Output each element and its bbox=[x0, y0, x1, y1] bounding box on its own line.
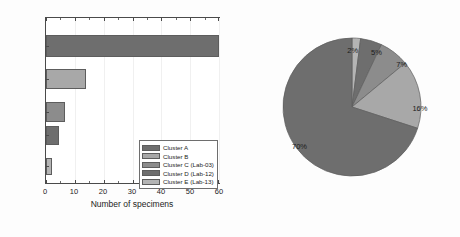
y-axis-tick bbox=[46, 135, 49, 136]
x-axis-title: Number of specimens bbox=[91, 199, 174, 209]
pie-plot-area bbox=[282, 37, 422, 177]
legend-swatch-cluster-b bbox=[142, 153, 160, 159]
bar-cluster-b bbox=[46, 69, 86, 89]
axis-minor-tick bbox=[89, 18, 90, 20]
axis-tick bbox=[75, 18, 76, 21]
legend-item: Cluster D (Lab-12) bbox=[142, 169, 214, 177]
legend-label: Cluster C (Lab-03) bbox=[163, 161, 214, 168]
legend-swatch-cluster-d bbox=[142, 170, 160, 176]
axis-minor-tick bbox=[118, 18, 119, 20]
axis-minor-tick bbox=[147, 18, 148, 20]
axis-tick bbox=[75, 180, 76, 183]
axis-minor-tick bbox=[60, 181, 61, 183]
axis-minor-tick bbox=[60, 18, 61, 20]
bar-cluster-a bbox=[46, 35, 219, 57]
bar-chart-legend: Cluster A Cluster B Cluster C (Lab-03) C… bbox=[139, 140, 218, 189]
axis-tick bbox=[133, 180, 134, 183]
axis-tick bbox=[161, 18, 162, 21]
axis-minor-tick bbox=[118, 181, 119, 183]
legend-swatch-cluster-e bbox=[142, 179, 160, 185]
axis-tick bbox=[46, 18, 47, 21]
legend-label: Cluster E (Lab-13) bbox=[163, 178, 214, 185]
axis-minor-tick bbox=[176, 18, 177, 20]
pie-label-70pct: 70% bbox=[292, 141, 307, 150]
axis-tick bbox=[133, 18, 134, 21]
axis-tick bbox=[46, 180, 47, 183]
legend-item: Cluster E (Lab-13) bbox=[142, 178, 214, 186]
pie-label-7pct: 7% bbox=[396, 60, 407, 69]
legend-label: Cluster D (Lab-12) bbox=[163, 170, 214, 177]
x-tick-label: 10 bbox=[70, 187, 78, 196]
legend-swatch-cluster-c bbox=[142, 162, 160, 168]
pie-label-2pct: 2% bbox=[347, 46, 358, 55]
axis-tick bbox=[218, 18, 219, 21]
legend-label: Cluster B bbox=[163, 153, 188, 160]
bar-chart-panel: 0 10 20 30 40 50 60 Cluster A Cluster B … bbox=[0, 0, 240, 237]
pie-label-16pct: 16% bbox=[412, 103, 427, 112]
axis-tick bbox=[104, 18, 105, 21]
y-axis-tick bbox=[46, 166, 49, 167]
axis-tick bbox=[190, 18, 191, 21]
x-tick-label: 0 bbox=[43, 187, 47, 196]
axis-tick bbox=[218, 180, 219, 183]
legend-label: Cluster A bbox=[163, 144, 188, 151]
x-tick-label: 30 bbox=[128, 187, 136, 196]
legend-item: Cluster B bbox=[142, 152, 214, 160]
y-axis-tick bbox=[46, 112, 49, 113]
figure-canvas: 0 10 20 30 40 50 60 Cluster A Cluster B … bbox=[0, 0, 460, 237]
legend-item: Cluster A bbox=[142, 144, 214, 152]
axis-minor-tick bbox=[205, 18, 206, 20]
y-axis-tick bbox=[46, 46, 49, 47]
pie-chart-panel: 2%5%7%16%70% bbox=[240, 0, 460, 237]
pie-label-5pct: 5% bbox=[371, 47, 382, 56]
legend-swatch-cluster-a bbox=[142, 145, 160, 151]
x-tick-label: 20 bbox=[99, 187, 107, 196]
y-axis-tick bbox=[46, 79, 49, 80]
legend-item: Cluster C (Lab-03) bbox=[142, 161, 214, 169]
axis-tick bbox=[104, 180, 105, 183]
gridline bbox=[219, 18, 220, 183]
pie-svg bbox=[282, 37, 422, 177]
axis-minor-tick bbox=[89, 181, 90, 183]
